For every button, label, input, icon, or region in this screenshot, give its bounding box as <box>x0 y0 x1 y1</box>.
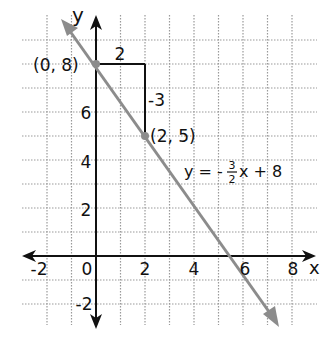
x-tick-label: 2 <box>140 259 151 279</box>
x-tick-label: 6 <box>240 259 251 279</box>
x-tick-label: -2 <box>31 259 48 279</box>
y-tick-label: 2 <box>81 200 92 220</box>
x-tick-label: 8 <box>288 259 299 279</box>
rise-label: -3 <box>148 90 165 110</box>
y-axis-label: y <box>72 3 84 27</box>
point-b-label: (2, 5) <box>150 126 196 146</box>
run-label: 2 <box>115 44 126 64</box>
linear-graph: y x -2 0 2 4 6 8 6 4 2 -2 (0, 8) (2, 5) … <box>0 0 329 342</box>
svg-text:3: 3 <box>229 159 236 172</box>
x-axis-label: x <box>309 257 320 278</box>
x-tick-label: 4 <box>189 259 200 279</box>
point-0-8 <box>92 60 100 68</box>
y-tick-label: 4 <box>81 152 92 172</box>
point-2-5 <box>141 132 149 140</box>
point-a-label: (0, 8) <box>33 55 79 75</box>
svg-text:y = -: y = - <box>184 162 223 181</box>
equation-label: y = - 3 2 x + 8 <box>184 159 282 186</box>
svg-text:2: 2 <box>229 173 236 186</box>
y-tick-label: 6 <box>81 103 92 123</box>
y-tick-label: -2 <box>76 294 93 314</box>
svg-text:x + 8: x + 8 <box>239 162 282 181</box>
x-tick-label: 0 <box>82 259 93 279</box>
